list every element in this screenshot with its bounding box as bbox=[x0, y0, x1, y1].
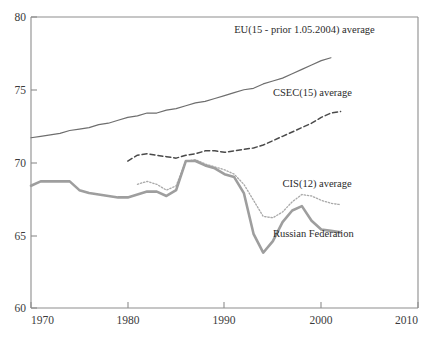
line-chart: 80 75 70 65 60 1970 1980 1990 2000 2010 … bbox=[0, 0, 441, 339]
x-tick-label-1990: 1990 bbox=[213, 314, 236, 326]
chart-canvas: 80 75 70 65 60 1970 1980 1990 2000 2010 … bbox=[0, 0, 441, 339]
y-tick-marks bbox=[31, 17, 37, 308]
series-label-eu: EU(15 - prior 1.05.2004) average bbox=[234, 24, 375, 36]
x-tick-label-1980: 1980 bbox=[117, 314, 140, 326]
y-tick-label-60: 60 bbox=[15, 302, 27, 314]
y-axis-tick-labels: 80 75 70 65 60 bbox=[15, 11, 27, 314]
y-tick-label-80: 80 bbox=[15, 11, 27, 23]
y-tick-label-65: 65 bbox=[15, 230, 27, 242]
series-label-csec: CSEC(15) average bbox=[273, 87, 352, 99]
series-annotations: EU(15 - prior 1.05.2004) average CSEC(15… bbox=[234, 24, 375, 239]
series-line-csec-15-average bbox=[128, 112, 341, 161]
series-label-rf: Russian Federation bbox=[273, 228, 355, 239]
x-tick-label-2000: 2000 bbox=[310, 314, 333, 326]
x-tick-marks bbox=[31, 302, 418, 308]
series-line-russian-federation bbox=[31, 161, 341, 253]
plot-frame bbox=[31, 17, 418, 308]
series-label-cis: CIS(12) average bbox=[283, 178, 352, 190]
y-tick-label-70: 70 bbox=[15, 157, 27, 169]
x-tick-label-2010: 2010 bbox=[395, 314, 418, 326]
x-axis-tick-labels: 1970 1980 1990 2000 2010 bbox=[31, 314, 418, 326]
series-line-eu-15-prior-1-05-2004-average bbox=[31, 58, 331, 138]
y-tick-label-75: 75 bbox=[15, 84, 27, 96]
x-tick-label-1970: 1970 bbox=[31, 314, 54, 326]
